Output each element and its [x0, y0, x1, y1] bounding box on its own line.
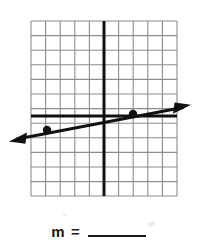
- plotted-point-right: [129, 110, 137, 118]
- worksheet-page: m =: [0, 0, 197, 244]
- plotted-point-left: [43, 126, 51, 134]
- answer-blank-input[interactable]: [88, 221, 146, 237]
- arrowhead-right-icon: [173, 103, 191, 114]
- equals-sign: =: [71, 224, 80, 239]
- slope-variable-label: m: [51, 224, 65, 239]
- graph-figure: [0, 0, 197, 218]
- answer-prompt: m =: [0, 216, 197, 244]
- arrowhead-left-icon: [9, 133, 27, 144]
- coordinate-plane-svg: [0, 0, 197, 218]
- prompt-inner: m =: [51, 221, 146, 239]
